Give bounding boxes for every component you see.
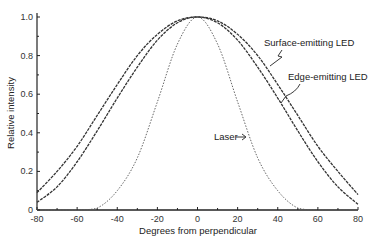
x-axis-title: Degrees from perpendicular — [139, 225, 257, 236]
annotation-arrow-icon — [270, 50, 282, 66]
x-tick-label: -60 — [71, 214, 84, 224]
annotation-label-edge-emitting-led: Edge-emitting LED — [288, 71, 368, 82]
x-tick-label: 80 — [353, 214, 363, 224]
annotation-label-laser: Laser — [214, 131, 238, 142]
x-tick-label: 40 — [273, 214, 283, 224]
y-tick-label: 0.6 — [20, 89, 33, 99]
y-tick-label: 0.4 — [20, 128, 33, 138]
x-tick-label: 0 — [195, 214, 200, 224]
x-tick-label: -20 — [151, 214, 164, 224]
y-tick-label: 0.8 — [20, 51, 33, 61]
x-tick-label: -40 — [111, 214, 124, 224]
annotation-label-surface-emitting-led: Surface-emitting LED — [264, 37, 354, 48]
x-tick-label: 60 — [313, 214, 323, 224]
intensity-chart: 00.20.40.60.81.0 -80-60-40-20020406080 S… — [0, 0, 369, 245]
y-axis: 00.20.40.60.81.0 — [20, 12, 40, 215]
y-axis-title: Relative intensity — [5, 77, 16, 149]
x-tick-label: 20 — [233, 214, 243, 224]
annotations: Surface-emitting LEDEdge-emitting LEDLas… — [214, 37, 368, 142]
y-tick-label: 0.2 — [20, 166, 33, 176]
y-tick-label: 1.0 — [20, 12, 33, 22]
x-tick-label: -80 — [30, 214, 43, 224]
